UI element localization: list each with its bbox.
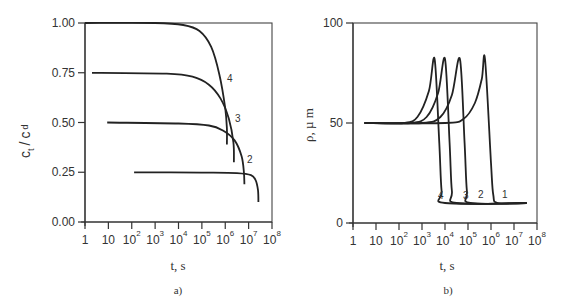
x-tick-label: 10 bbox=[102, 233, 116, 247]
x-tick-label: 103 bbox=[413, 230, 431, 248]
x-tick-label: 107 bbox=[240, 229, 258, 247]
x-tick-label: 107 bbox=[505, 230, 523, 248]
y-tick-label: 50 bbox=[330, 116, 344, 130]
y-axis-title-b: ρ, µ m bbox=[301, 108, 316, 142]
x-tick-label: 103 bbox=[146, 229, 164, 247]
curves-b bbox=[365, 55, 527, 204]
x-tick-label: 105 bbox=[193, 229, 211, 247]
x-tick-label: 108 bbox=[263, 229, 281, 247]
curve-4 bbox=[365, 58, 527, 204]
x-tick-label: 106 bbox=[216, 229, 234, 247]
y-tick-label: 0.25 bbox=[52, 165, 76, 179]
x-tick-label: 106 bbox=[482, 230, 500, 248]
svg-text:ρ, µ m: ρ, µ m bbox=[301, 108, 316, 142]
x-tick-label: 104 bbox=[436, 230, 454, 248]
curve-label-3: 3 bbox=[235, 113, 241, 124]
x-tick-label: 102 bbox=[390, 230, 408, 248]
curve-label-2: 2 bbox=[478, 189, 484, 200]
curves-a bbox=[85, 23, 258, 202]
y-tick-label: 0.75 bbox=[52, 66, 76, 80]
x-tick-label: 1 bbox=[350, 234, 357, 248]
x-axis-b: 110102103104105106107108 bbox=[349, 223, 546, 248]
y-axis-b: 100500 bbox=[323, 16, 353, 230]
y-tick-label: 0.00 bbox=[52, 215, 76, 229]
svg-text:ct/cd: ct/cd bbox=[17, 125, 36, 158]
y-tick-label: 0 bbox=[336, 216, 343, 230]
x-tick-label: 104 bbox=[170, 229, 188, 247]
curve-label-4: 4 bbox=[227, 73, 233, 84]
x-axis-title-b: t, s bbox=[439, 258, 454, 273]
x-tick-label: 1 bbox=[82, 233, 89, 247]
curve-label-2: 2 bbox=[247, 154, 253, 165]
y-tick-label: 0.50 bbox=[52, 116, 76, 130]
y-tick-label: 100 bbox=[323, 16, 343, 30]
curve-label-4: 4 bbox=[438, 190, 444, 201]
x-tick-label: 10 bbox=[369, 234, 383, 248]
curve-2 bbox=[365, 58, 527, 204]
figure: 1.000.750.500.250.00 1101021031041051061… bbox=[0, 0, 568, 308]
y-axis-a: 1.000.750.500.250.00 bbox=[52, 16, 85, 229]
chart-panel-a: 1.000.750.500.250.00 1101021031041051061… bbox=[17, 16, 281, 297]
x-axis-title-a: t, s bbox=[170, 258, 185, 273]
x-tick-label: 102 bbox=[123, 229, 141, 247]
curve-1 bbox=[134, 172, 258, 202]
x-tick-label: 105 bbox=[459, 230, 477, 248]
x-axis-a: 110102103104105106107108 bbox=[81, 222, 281, 247]
chart-panel-b: 100500 110102103104105106107108 4 3 2 1 … bbox=[301, 16, 546, 297]
curve-3 bbox=[365, 58, 527, 204]
curve-label-3: 3 bbox=[463, 190, 469, 201]
curve-1 bbox=[365, 55, 527, 203]
x-tick-label: 108 bbox=[528, 230, 546, 248]
curve-2 bbox=[107, 123, 244, 185]
panel-caption-b: b) bbox=[443, 284, 453, 297]
curve-4 bbox=[85, 23, 227, 145]
y-tick-label: 1.00 bbox=[52, 16, 76, 30]
y-axis-title-a: ct/cd bbox=[17, 125, 36, 158]
curve-3 bbox=[92, 73, 234, 163]
panel-caption-a: a) bbox=[174, 284, 183, 297]
curve-label-1: 1 bbox=[502, 189, 508, 200]
